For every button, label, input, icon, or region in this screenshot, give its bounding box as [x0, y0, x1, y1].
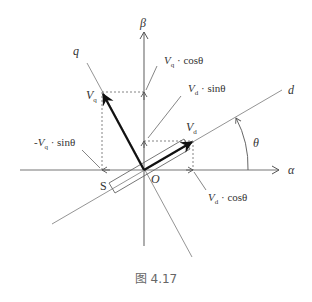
alpha-axis-label: α	[288, 163, 295, 177]
vd-vector	[144, 142, 192, 170]
vq-vector	[103, 94, 144, 170]
theta-label: θ	[253, 136, 259, 150]
origin-label: O	[151, 172, 160, 186]
neg-vq-sin-label: -Vq · sinθ	[34, 136, 75, 151]
vq-cos-label: Vq · cosθ	[164, 54, 203, 69]
vd-sin-label: Vd · sinθ	[188, 82, 226, 97]
neg-vq-sin-leader	[82, 150, 100, 168]
figure-caption: 图 4.17	[135, 272, 178, 286]
magnet-s-label: S	[100, 179, 107, 193]
dq-transform-diagram: α β d q S Vq Vd O θ Vq · cosθ Vd · sinθ	[0, 0, 312, 302]
vd-cos-label: Vd · cosθ	[208, 191, 247, 206]
vq-vector-label: Vq	[86, 88, 97, 104]
d-axis-label: d	[288, 83, 295, 97]
vd-vector-label: Vd	[186, 120, 197, 136]
q-axis-label: q	[73, 44, 79, 58]
vd-sin-leader	[148, 96, 181, 138]
vd-cos-leader	[194, 172, 206, 190]
theta-arc	[236, 118, 248, 170]
beta-axis-label: β	[139, 16, 146, 30]
vq-cos-leader	[146, 66, 157, 90]
